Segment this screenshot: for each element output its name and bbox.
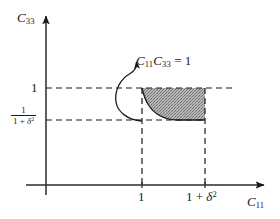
x-axis-label: C11	[247, 195, 264, 210]
fraction-numerator: 1	[11, 106, 36, 115]
curve-equation-annotation: C11C33 = 1	[136, 54, 191, 69]
x-tick-label-one: 1	[138, 190, 145, 203]
hyperbola-region-figure: C33 C11 1 1 1 + δ2 1 1 + δ2 C11C33 = 1	[0, 0, 280, 219]
figure-canvas	[0, 0, 280, 219]
annotation-curved-arrow	[116, 62, 142, 121]
y-tick-label-one: 1	[31, 81, 38, 94]
y-axis-label: C33	[17, 11, 35, 26]
fraction: 1 1 + δ2	[11, 106, 36, 127]
fraction-denominator: 1 + δ2	[11, 115, 36, 126]
y-tick-label-fraction: 1 1 + δ2	[11, 106, 36, 127]
shaded-region	[142, 88, 205, 120]
x-tick-label-delta: 1 + δ2	[186, 190, 217, 203]
